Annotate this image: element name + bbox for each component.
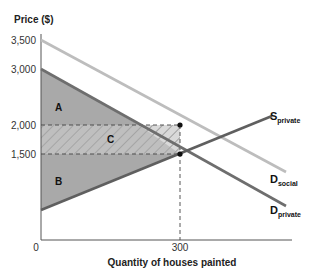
d-social-label: Dsocial [270, 173, 298, 187]
x-tick-300: 300 [172, 242, 189, 253]
s-private-label: Sprivate [270, 110, 300, 125]
area-c-label: C [107, 134, 114, 145]
y-tick-3500: 3,500 [11, 35, 36, 46]
point-300-1500 [177, 151, 182, 156]
x-axis-title: Quantity of houses painted [108, 257, 237, 268]
chart: Price ($) 3,500 3,000 2,000 1,500 0 300 … [0, 0, 317, 275]
y-tick-1500: 1,500 [11, 149, 36, 160]
area-a-label: A [55, 102, 62, 113]
area-b-label: B [55, 176, 62, 187]
y-tick-3000: 3,000 [11, 64, 36, 75]
x-tick-0: 0 [33, 242, 39, 253]
point-300-2000 [177, 122, 182, 127]
y-axis-title: Price ($) [14, 14, 53, 25]
y-tick-2000: 2,000 [11, 120, 36, 131]
